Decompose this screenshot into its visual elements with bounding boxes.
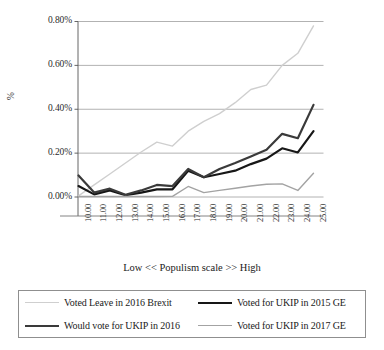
legend-label: Voted Leave in 2016 Brexit — [64, 297, 172, 308]
legend-entry[interactable]: Voted for UKIP in 2015 GE — [192, 297, 365, 308]
x-tick-label: 21.00 — [255, 204, 265, 222]
y-tick-label: 0.80% — [26, 15, 72, 25]
chart-figure: % 0.00%0.20%0.40%0.60%0.80% 10.0011.0012… — [0, 0, 384, 350]
series-line-3 — [79, 173, 314, 196]
legend-entry[interactable]: Voted for UKIP in 2017 GE — [192, 320, 365, 331]
x-tick-label: 17.00 — [192, 204, 202, 222]
chart-canvas — [0, 0, 384, 288]
x-axis-title: Low << Populism scale >> High — [0, 262, 384, 273]
x-tick-label: 25.00 — [318, 204, 328, 222]
series-line-1 — [79, 131, 314, 195]
x-tick-label: 22.00 — [271, 204, 281, 222]
x-tick-label: 16.00 — [177, 204, 187, 222]
legend-entry[interactable]: Would vote for UKIP in 2016 — [19, 320, 192, 331]
x-tick-label: 15.00 — [161, 204, 171, 222]
x-tick-label: 13.00 — [130, 204, 140, 222]
legend-line-swatch — [198, 325, 232, 326]
y-tick-label: 0.00% — [26, 191, 72, 201]
legend-entry[interactable]: Voted Leave in 2016 Brexit — [19, 297, 192, 308]
legend-line-swatch — [25, 302, 59, 303]
series-line-0 — [79, 26, 314, 196]
x-tick-label: 23.00 — [286, 204, 296, 222]
plot-area — [0, 0, 384, 288]
x-tick-label: 12.00 — [114, 204, 124, 222]
legend-line-swatch — [25, 325, 59, 327]
y-tick-label: 0.40% — [26, 103, 72, 113]
x-tick-label: 10.00 — [83, 204, 93, 222]
legend-label: Voted for UKIP in 2017 GE — [237, 320, 346, 331]
x-tick-label: 11.00 — [98, 204, 108, 222]
y-tick-label: 0.60% — [26, 59, 72, 69]
legend-label: Would vote for UKIP in 2016 — [64, 320, 180, 331]
x-tick-label: 18.00 — [208, 204, 218, 222]
x-tick-label: 14.00 — [145, 204, 155, 222]
y-tick-label: 0.20% — [26, 147, 72, 157]
x-tick-label: 24.00 — [302, 204, 312, 222]
x-tick-label: 19.00 — [224, 204, 234, 222]
legend-label: Voted for UKIP in 2015 GE — [237, 297, 346, 308]
legend-line-swatch — [198, 302, 232, 304]
y-axis-title: % — [6, 92, 16, 100]
x-tick-label: 20.00 — [239, 204, 249, 222]
chart-legend: Voted Leave in 2016 BrexitVoted for UKIP… — [18, 290, 366, 338]
